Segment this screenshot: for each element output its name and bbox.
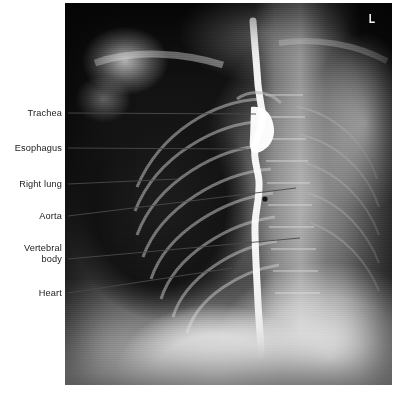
leader-lines-overlay: [0, 0, 399, 400]
label-esophagus: Esophagus: [15, 143, 62, 154]
label-right-lung: Right lung: [19, 179, 62, 190]
label-heart: Heart: [39, 288, 62, 299]
label-aorta: Aorta: [39, 211, 62, 222]
leader-line-heart: [68, 268, 232, 293]
leader-line-vertebral-body: [68, 238, 300, 259]
label-vertebral-body: Vertebral body: [24, 243, 62, 264]
leader-line-trachea: [68, 113, 256, 114]
label-trachea: Trachea: [28, 108, 62, 119]
leader-line-esophagus: [68, 148, 246, 149]
leader-line-aorta: [68, 188, 296, 216]
leader-line-right-lung: [68, 179, 178, 184]
annotated-xray-figure: L Trachea Esophagus Right lung Aorta Ver…: [0, 0, 399, 400]
